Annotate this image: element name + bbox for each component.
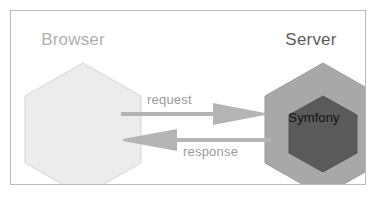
response-arrow-head	[123, 129, 177, 151]
server-node-label: Server	[249, 31, 366, 48]
request-arrow-shaft	[121, 112, 225, 116]
diagram-canvas: Browser Server Symfony request	[0, 0, 382, 200]
request-arrow-head	[213, 103, 265, 125]
request-arrow-label: request	[147, 93, 192, 106]
diagram-frame: Browser Server Symfony request	[10, 10, 366, 185]
browser-node-label: Browser	[11, 31, 135, 48]
response-arrow-shaft	[167, 138, 271, 142]
response-arrow-label: response	[183, 145, 238, 158]
